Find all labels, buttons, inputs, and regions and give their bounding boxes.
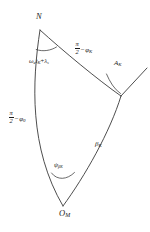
vertex-label-observer: OM bbox=[59, 209, 70, 219]
vertex-observer-subscript: M bbox=[65, 212, 70, 218]
side-label-beta: βK bbox=[95, 141, 102, 149]
arc-observer-to-satellite bbox=[63, 96, 121, 206]
angle-arc-north bbox=[36, 47, 56, 51]
phi-subscript-observer: 0 bbox=[23, 118, 25, 123]
psi-subscript-K: K bbox=[60, 165, 63, 169]
arc-beta-extension bbox=[121, 68, 147, 96]
angle-label-observer: ψβK bbox=[54, 162, 63, 170]
pi-numerator-observer: π bbox=[9, 110, 14, 116]
vertex-label-north: N bbox=[36, 12, 42, 21]
spherical-triangle-figure: N OM ωetK+λs π 2 −φK AK π 2 −φ0 βK ψβK bbox=[0, 0, 150, 232]
angle-label-north: ωetK+λs bbox=[29, 58, 49, 66]
two-denominator: 2 bbox=[75, 49, 80, 55]
pi-over-two-fraction-observer: π 2 bbox=[9, 110, 14, 125]
angle-arc-observer bbox=[52, 173, 75, 179]
angle-label-satellite: AK bbox=[114, 60, 122, 68]
vertex-north-text: N bbox=[36, 11, 42, 21]
phi-subscript-satellite: K bbox=[89, 49, 92, 54]
pi-numerator: π bbox=[75, 41, 80, 47]
A-subscript: K bbox=[118, 62, 121, 67]
two-denominator-observer: 2 bbox=[9, 118, 14, 124]
side-label-colatitude-satellite: π 2 −φK bbox=[74, 41, 92, 56]
pi-over-two-fraction-satellite: π 2 bbox=[75, 41, 80, 56]
side-label-colatitude-observer: π 2 −φ0 bbox=[8, 110, 26, 125]
lambda-subscript: s bbox=[47, 60, 49, 65]
beta-subscript: K bbox=[99, 143, 102, 148]
arc-north-to-satellite bbox=[40, 30, 121, 96]
